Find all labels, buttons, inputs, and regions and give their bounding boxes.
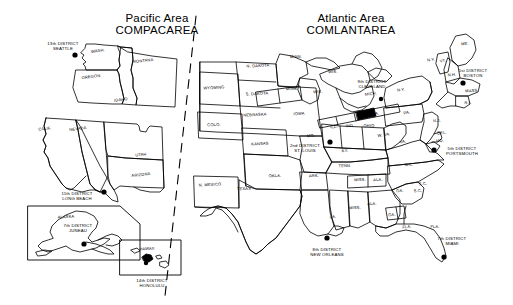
district-label-d5: 5th DISTRICTPORTSMOUTH [428, 146, 496, 156]
atlantic-title-line2: COMLANTAREA [281, 24, 421, 36]
panel-title-atlantic: Atlantic Area COMLANTAREA [281, 12, 421, 37]
district-dots [72, 52, 465, 265]
district-label-line2: MIAMI [418, 241, 486, 246]
district-label-line2: PORTSMOUTH [428, 151, 496, 156]
district-label-d11: 11th DISTRICTLONG BEACH [43, 191, 111, 201]
pacific-title-line1: Pacific Area [92, 12, 222, 24]
district-label-line2: LONG BEACH [43, 196, 111, 201]
usgc-area-district-map: Pacific Area COMPACAREA Atlantic Area CO… [0, 0, 513, 305]
district-label-line2: JUNEAU [44, 228, 112, 233]
atlantic-title-line1: Atlantic Area [281, 12, 421, 24]
district-label-d8: 8th DISTRICTNEW ORLEANS [293, 247, 361, 257]
pacific-title-line2: COMPACAREA [92, 24, 222, 36]
district-label-d14: 14th DISTRICTHONOLULU [118, 278, 186, 288]
district-label-d7a: 7th DISTRICTJUNEAU [44, 223, 112, 233]
district-label-line2: HONOLULU [118, 283, 186, 288]
panel-title-pacific: Pacific Area COMPACAREA [92, 12, 222, 37]
district-label-line2: NEW ORLEANS [293, 252, 361, 257]
district-label-d7b: 7th DISTRICTMIAMI [418, 236, 486, 246]
